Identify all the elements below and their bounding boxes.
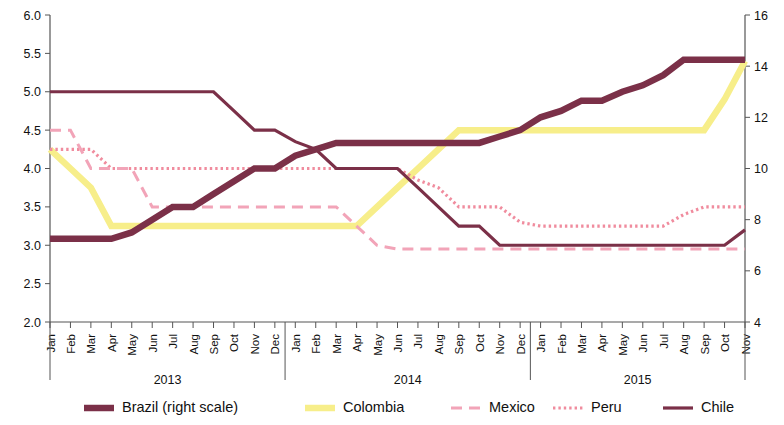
x-axis-month-label: Jul: [658, 334, 670, 349]
x-axis-month-label: Oct: [474, 333, 486, 352]
x-axis-month-label: Feb: [310, 334, 322, 354]
right-axis-tick-label: 4: [754, 316, 761, 330]
chart-container: 2.02.53.03.54.04.55.05.56.0 46810121416 …: [0, 0, 784, 425]
right-axis-tick-label: 14: [754, 60, 768, 74]
x-axis-month-label: Nov: [494, 334, 506, 355]
legend-label-brazil-right-scale: Brazil (right scale): [122, 399, 238, 415]
x-axis-month-label: Dec: [269, 334, 281, 355]
x-axis-month-label: Apr: [106, 334, 118, 352]
left-axis-tick-label: 2.0: [24, 316, 41, 330]
left-axis-tick-label: 6.0: [24, 9, 41, 23]
left-axis-tick-label: 2.5: [24, 277, 41, 291]
x-axis-month-label: Jun: [392, 334, 404, 353]
left-axis-tick-label: 3.0: [24, 239, 41, 253]
x-axis-month-label: Apr: [351, 334, 363, 352]
x-axis-month-label: Sep: [453, 334, 465, 354]
x-axis-month-label: Sep: [699, 334, 711, 354]
left-axis-tick-label: 5.0: [24, 85, 41, 99]
x-axis-month-label: Nov: [249, 334, 261, 355]
x-axis-month-label: Sep: [208, 334, 220, 354]
x-axis-month-label: Jun: [147, 334, 159, 353]
x-axis-month-label: Aug: [678, 334, 690, 354]
right-axis-tick-label: 16: [754, 9, 768, 23]
right-axis-tick-label: 12: [754, 111, 768, 125]
left-axis: 2.02.53.03.54.04.55.05.56.0: [24, 9, 50, 330]
x-axis-month-label: Mar: [331, 334, 343, 354]
x-axis-year-label: 2014: [394, 373, 422, 387]
x-axis-year-label: 2015: [624, 373, 652, 387]
legend-label-colombia: Colombia: [343, 399, 405, 415]
x-axis-month-label: May: [617, 334, 629, 356]
left-axis-tick-label: 5.5: [24, 47, 41, 61]
legend-label-mexico: Mexico: [489, 399, 535, 415]
x-axis-month-label: May: [372, 334, 384, 356]
right-axis: 46810121416: [745, 9, 768, 330]
left-axis-tick-label: 3.5: [24, 200, 41, 214]
x-axis-month-label: Oct: [719, 333, 731, 352]
x-axis-month-label: Jan: [535, 334, 547, 353]
x-axis-month-label: Mar: [576, 334, 588, 354]
x-axis: JanFebMarAprMayJunJulAugSepOctNovDecJanF…: [45, 322, 752, 387]
right-axis-tick-label: 6: [754, 264, 761, 278]
legend-label-peru: Peru: [591, 399, 622, 415]
x-axis-month-label: Feb: [65, 334, 77, 354]
x-axis-month-label: Apr: [596, 334, 608, 352]
x-axis-year-label: 2013: [154, 373, 182, 387]
x-axis-month-label: Aug: [188, 334, 200, 354]
left-axis-tick-label: 4.5: [24, 124, 41, 138]
x-axis-month-label: Jul: [167, 334, 179, 349]
chart-legend: Brazil (right scale)ColombiaMexicoPeruCh…: [84, 399, 734, 415]
line-chart: 2.02.53.03.54.04.55.05.56.0 46810121416 …: [0, 0, 784, 425]
series-line-brazil-right-scale: [50, 60, 745, 239]
x-axis-month-label: Mar: [85, 334, 97, 354]
right-axis-tick-label: 8: [754, 213, 761, 227]
left-axis-tick-label: 4.0: [24, 162, 41, 176]
x-axis-month-label: Feb: [556, 334, 568, 354]
x-axis-month-label: Jul: [412, 334, 424, 349]
x-axis-month-label: Jun: [637, 334, 649, 353]
right-axis-tick-label: 10: [754, 162, 768, 176]
series-lines: [50, 60, 745, 249]
x-axis-month-label: May: [126, 334, 138, 356]
x-axis-month-label: Dec: [515, 334, 527, 355]
x-axis-month-label: Aug: [433, 334, 445, 354]
x-axis-month-label: Oct: [228, 333, 240, 352]
legend-label-chile: Chile: [701, 399, 734, 415]
x-axis-month-label: Jan: [290, 334, 302, 353]
